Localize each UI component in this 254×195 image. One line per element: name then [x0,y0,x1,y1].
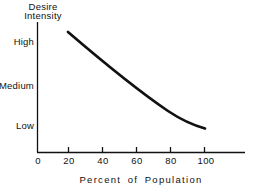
chart-figure: Desire Intensity High Medium Low 0 20 40… [0,0,254,195]
x-tick-label-80: 80 [151,156,191,166]
y-axis-title: Desire Intensity [0,2,86,21]
y-tick-label-medium: Medium [0,81,34,91]
y-axis-title-line-2: Intensity [0,11,86,21]
x-tick-label-100: 100 [186,156,226,166]
y-tick-label-low: Low [0,121,34,131]
x-axis-title: Percent of Population [37,175,245,185]
y-tick-label-high: High [0,37,34,47]
desire-intensity-curve [68,32,205,129]
x-axis-tick-marks [69,147,205,152]
